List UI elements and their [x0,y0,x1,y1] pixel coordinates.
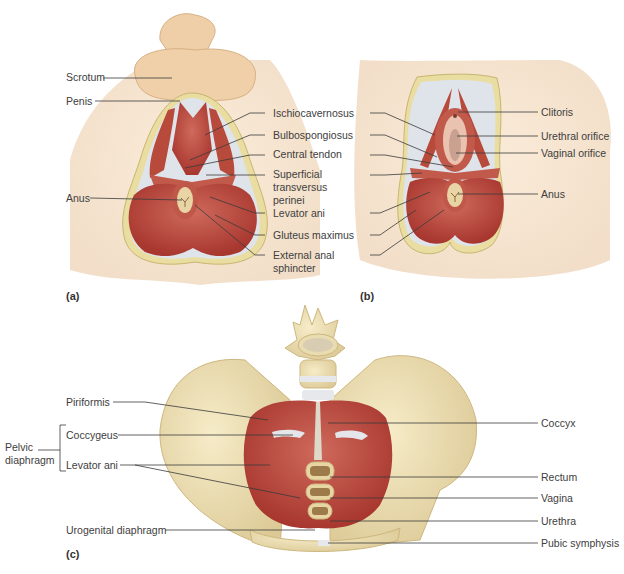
label-line: Pelvic [5,441,55,454]
panel-letter-b: (b) [360,290,374,302]
label-vagina: Vagina [541,492,573,505]
panel-letter-a: (a) [66,290,79,302]
label-penis: Penis [66,95,92,108]
label-ischiocavernosus: Ischiocavernosus [273,107,354,120]
label-line: transversus [273,181,327,194]
label-coccygeus: Coccygeus [66,429,118,442]
label-scrotum: Scrotum [66,71,105,84]
label-coccyx: Coccyx [541,417,575,430]
label-rectum: Rectum [541,471,577,484]
label-levator-ani-pelvic: Levator ani [66,459,118,472]
label-line: Superficial [273,168,327,181]
label-line: diaphragm [5,454,55,467]
label-piriformis: Piriformis [66,396,110,409]
label-pelvic-diaphragm: Pelvic diaphragm [5,441,55,467]
figure-illustration [0,0,624,574]
label-urogenital-diaphragm: Urogenital diaphragm [66,524,166,537]
panel-letter-c: (c) [66,548,79,560]
label-external-anal-sphincter: External anal sphincter [273,249,334,275]
label-bulbospongiosus: Bulbospongiosus [273,129,353,142]
label-gluteus-maximus: Gluteus maximus [273,229,354,242]
label-levator-ani-perineum: Levator ani [273,207,325,220]
label-line: sphincter [273,262,334,275]
label-clitoris: Clitoris [541,106,573,119]
label-anus-female: Anus [541,188,565,201]
label-urethral-orifice: Urethral orifice [541,130,609,143]
label-anus-male: Anus [66,192,90,205]
label-line: perinei [273,194,327,207]
label-superficial-transversus-perinei: Superficial transversus perinei [273,168,327,207]
label-vaginal-orifice: Vaginal orifice [541,147,606,160]
panel-c-illustration [160,305,477,552]
label-urethra: Urethra [541,515,576,528]
label-central-tendon: Central tendon [273,148,342,161]
label-pubic-symphysis: Pubic symphysis [541,537,619,550]
label-line: External anal [273,249,334,262]
